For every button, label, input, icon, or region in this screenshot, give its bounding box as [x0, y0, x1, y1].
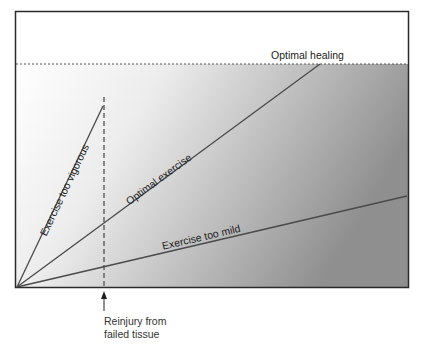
reinjury-caption-line1: Reinjury from [104, 315, 166, 328]
reinjury-caption-line2: failed tissue [104, 328, 166, 341]
arrow-up-icon [101, 291, 107, 299]
optimal-healing-label: Optimal healing [271, 50, 344, 61]
reinjury-caption: Reinjury from failed tissue [104, 315, 166, 341]
healing-diagram: Optimal healing Exercise too vigorous Op… [0, 0, 423, 351]
